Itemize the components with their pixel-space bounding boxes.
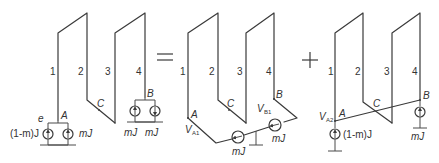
plus-operator xyxy=(302,52,318,68)
conductor-label-1: 1 xyxy=(50,66,56,77)
voltage-sub-A2: A2 xyxy=(326,117,334,123)
node-dot-C xyxy=(98,109,100,111)
equals-operator xyxy=(157,54,173,60)
ground-bus-A xyxy=(48,139,68,145)
panel-1-original-circuit: 1 2 3 4 C A e (1-m)J mJ B mJ mJ xyxy=(10,13,163,145)
conductor-label-4: 4 xyxy=(136,66,142,77)
panel-2-first-component: 1 2 3 4 C A B V A1 V B1 mJ mJ xyxy=(180,13,297,157)
source-label-mJ: mJ xyxy=(411,131,425,142)
node-label-e: e xyxy=(38,113,44,124)
conductor-label-2: 2 xyxy=(355,66,361,77)
node-label-B: B xyxy=(147,88,154,99)
panel-3-second-component: 1 2 3 4 C A B V A2 (1-m)J mJ xyxy=(319,13,430,151)
node-label-A: A xyxy=(338,108,346,119)
node-label-B: B xyxy=(276,89,283,100)
node-label-C: C xyxy=(227,98,235,109)
node-label-C: C xyxy=(97,98,105,109)
source-pair-bus-A xyxy=(48,123,68,129)
wire-B-to-right xyxy=(274,99,297,122)
node-label-C: C xyxy=(373,98,381,109)
node-label-A: A xyxy=(190,109,198,120)
node-label-A: A xyxy=(60,110,68,121)
voltage-sub-B1: B1 xyxy=(264,109,272,115)
conductor-label-4: 4 xyxy=(412,66,418,77)
source-label-mJ: mJ xyxy=(124,127,138,138)
conductor-label-3: 3 xyxy=(237,66,243,77)
source-label-mJ: mJ xyxy=(272,133,286,144)
source-label-1-m-J: (1-m)J xyxy=(343,129,372,140)
conductor-label-4: 4 xyxy=(266,66,272,77)
source-label-mJ: mJ xyxy=(79,128,93,139)
conductor-label-2: 2 xyxy=(209,66,215,77)
conductor-label-1: 1 xyxy=(180,66,186,77)
conductor-label-2: 2 xyxy=(78,66,84,77)
source-pair-bus-B xyxy=(135,100,155,106)
source-label-mJ: mJ xyxy=(145,127,159,138)
conductor-label-3: 3 xyxy=(384,66,390,77)
node-dot-C xyxy=(228,109,230,111)
source-label-mJ: mJ xyxy=(232,146,246,157)
voltage-sub-A1: A1 xyxy=(192,130,200,136)
circuit-superposition-diagram: 1 2 3 4 C A e (1-m)J mJ B mJ mJ xyxy=(0,0,439,163)
ground-bus-B xyxy=(135,116,155,122)
conductor-label-3: 3 xyxy=(105,66,111,77)
source-label-1-m-J: (1-m)J xyxy=(10,128,39,139)
conductor-label-1: 1 xyxy=(328,66,334,77)
node-label-B: B xyxy=(423,90,430,101)
